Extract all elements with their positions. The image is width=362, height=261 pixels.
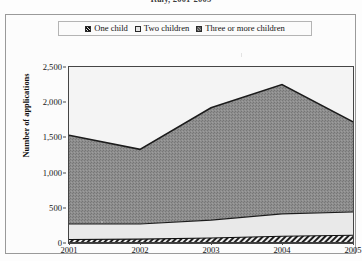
figure-frame: One child Two children Three or more chi… bbox=[5, 14, 356, 254]
x-axis-tick: 2001 bbox=[60, 246, 77, 255]
y-axis-tick-mark bbox=[63, 207, 66, 208]
scan-artifact bbox=[241, 53, 242, 57]
legend-label: One child bbox=[94, 24, 128, 33]
scan-artifact bbox=[101, 221, 103, 223]
y-axis-tick-mark bbox=[63, 243, 66, 244]
x-axis-tick-mark bbox=[140, 242, 141, 245]
x-axis-tick-mark bbox=[282, 242, 283, 245]
y-axis-tick: 1,500 bbox=[43, 133, 62, 142]
gray-square-icon bbox=[196, 26, 202, 32]
x-axis-tick: 2003 bbox=[202, 246, 219, 255]
x-axis-tick-mark bbox=[353, 242, 354, 245]
chart-figure: Italy, 2001-2005 One child Two children … bbox=[0, 0, 362, 261]
y-axis-tick-mark bbox=[63, 137, 66, 138]
y-axis-tick: 2,500 bbox=[43, 63, 62, 72]
x-axis-tick: 2004 bbox=[273, 246, 290, 255]
y-axis-tick: 1,000 bbox=[43, 168, 62, 177]
chart-legend: One child Two children Three or more chi… bbox=[58, 21, 312, 36]
stacked-area-svg bbox=[69, 67, 353, 243]
y-axis-tick-labels: 05001,0001,5002,0002,500 bbox=[20, 41, 66, 243]
x-axis-tick-labels: 20012002200320042005 bbox=[68, 246, 354, 260]
x-axis-tick: 2002 bbox=[131, 246, 148, 255]
x-axis-tick: 2005 bbox=[344, 246, 361, 255]
x-axis-tick-mark bbox=[69, 242, 70, 245]
y-axis-tick-mark bbox=[63, 67, 66, 68]
x-axis-tick-mark bbox=[211, 242, 212, 245]
plot-area bbox=[68, 66, 354, 244]
legend-label: Two children bbox=[144, 24, 189, 33]
light-square-icon bbox=[135, 26, 141, 32]
hatched-square-icon bbox=[85, 26, 91, 32]
y-axis-tick-mark bbox=[63, 172, 66, 173]
legend-item-two-children[interactable]: Two children bbox=[135, 24, 189, 33]
legend-label: Three or more children bbox=[205, 24, 284, 33]
legend-item-three-or-more-children[interactable]: Three or more children bbox=[196, 24, 284, 33]
chart-title: Italy, 2001-2005 bbox=[0, 0, 362, 4]
y-axis-tick: 500 bbox=[49, 204, 62, 213]
legend-item-one-child[interactable]: One child bbox=[85, 24, 128, 33]
y-axis-tick: 2,000 bbox=[43, 98, 62, 107]
y-axis-tick-mark bbox=[63, 102, 66, 103]
